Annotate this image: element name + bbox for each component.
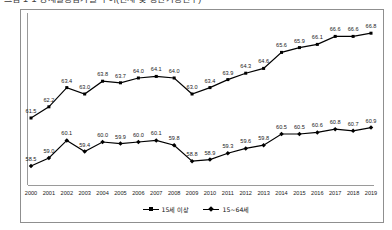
chart-legend: 15세 이상15~64세 bbox=[0, 205, 392, 214]
data-point-label: 60.0 bbox=[133, 132, 144, 138]
data-point-label: 60.8 bbox=[330, 119, 341, 125]
data-point-marker bbox=[100, 140, 105, 145]
chart-plot-area: 61.562.263.463.063.863.764.064.164.063.0… bbox=[0, 0, 392, 230]
data-point-label: 64.0 bbox=[169, 68, 180, 74]
data-point-label: 59.0 bbox=[43, 148, 54, 154]
x-axis-tick-label: 2017 bbox=[329, 190, 341, 196]
data-point-marker bbox=[244, 72, 247, 75]
data-point-marker bbox=[29, 164, 34, 169]
data-point-label: 64.6 bbox=[258, 58, 269, 64]
data-point-marker bbox=[208, 86, 211, 89]
data-point-marker bbox=[83, 93, 86, 96]
data-point-label: 59.9 bbox=[115, 134, 126, 140]
data-point-marker bbox=[351, 129, 356, 134]
data-point-label: 64.3 bbox=[240, 63, 251, 69]
data-point-marker bbox=[334, 35, 337, 38]
x-axis-tick-label: 2019 bbox=[365, 190, 377, 196]
data-point-marker bbox=[297, 132, 302, 137]
data-point-marker bbox=[65, 86, 68, 89]
series-line bbox=[31, 33, 371, 118]
legend-marker-icon bbox=[143, 206, 159, 213]
data-point-label: 59.6 bbox=[240, 138, 251, 144]
data-point-marker bbox=[119, 81, 122, 84]
legend-item-label: 15세 이상 bbox=[162, 205, 190, 214]
data-point-marker bbox=[101, 80, 104, 83]
data-point-marker bbox=[136, 140, 141, 145]
data-point-label: 62.2 bbox=[43, 97, 54, 103]
data-point-label: 60.5 bbox=[294, 124, 305, 130]
data-point-label: 64.0 bbox=[133, 68, 144, 74]
data-point-label: 65.6 bbox=[276, 42, 287, 48]
data-point-marker bbox=[369, 125, 374, 130]
data-point-label: 60.0 bbox=[97, 132, 108, 138]
data-point-label: 66.8 bbox=[366, 23, 377, 29]
data-point-marker bbox=[315, 130, 320, 135]
x-axis-tick-label: 2015 bbox=[293, 190, 305, 196]
data-point-label: 63.4 bbox=[61, 78, 72, 84]
data-point-marker bbox=[316, 43, 319, 46]
data-point-marker bbox=[352, 35, 355, 38]
data-point-marker bbox=[154, 138, 159, 143]
x-axis-tick-label: 2006 bbox=[132, 190, 144, 196]
data-point-marker bbox=[30, 117, 33, 120]
x-axis-tick-label: 2012 bbox=[240, 190, 252, 196]
data-point-label: 64.1 bbox=[151, 66, 162, 72]
data-point-marker bbox=[243, 146, 248, 151]
data-point-label: 60.7 bbox=[348, 121, 359, 127]
x-axis-tick-label: 2005 bbox=[114, 190, 126, 196]
data-point-label: 60.1 bbox=[61, 130, 72, 136]
x-axis-tick-label: 2010 bbox=[204, 190, 216, 196]
x-axis-tick-label: 2009 bbox=[186, 190, 198, 196]
x-axis-tick-label: 2000 bbox=[25, 190, 37, 196]
x-axis-tick-label: 2002 bbox=[61, 190, 73, 196]
x-axis-tick-label: 2004 bbox=[96, 190, 108, 196]
data-point-label: 60.5 bbox=[276, 124, 287, 130]
x-axis-tick-label: 2011 bbox=[222, 190, 234, 196]
data-point-label: 63.0 bbox=[187, 84, 198, 90]
data-point-label: 58.8 bbox=[187, 151, 198, 157]
data-point-label: 66.1 bbox=[312, 34, 323, 40]
data-point-label: 59.3 bbox=[222, 143, 233, 149]
x-axis-tick-label: 2016 bbox=[311, 190, 323, 196]
data-point-label: 59.8 bbox=[169, 135, 180, 141]
data-point-marker bbox=[370, 32, 373, 35]
legend-marker-icon bbox=[203, 206, 219, 213]
data-point-marker bbox=[298, 46, 301, 49]
data-point-marker bbox=[118, 141, 123, 146]
x-axis-tick-label: 2008 bbox=[168, 190, 180, 196]
data-point-label: 59.4 bbox=[79, 142, 90, 148]
x-axis-tick-label: 2003 bbox=[78, 190, 90, 196]
data-point-label: 66.6 bbox=[330, 26, 341, 32]
x-axis-tick-label: 2013 bbox=[257, 190, 269, 196]
data-point-label: 60.1 bbox=[151, 130, 162, 136]
data-point-marker bbox=[280, 51, 283, 54]
x-axis-tick-label: 2001 bbox=[43, 190, 55, 196]
data-point-label: 59.8 bbox=[258, 135, 269, 141]
legend-item-label: 15~64세 bbox=[222, 205, 249, 214]
data-point-marker bbox=[226, 78, 229, 81]
data-point-marker bbox=[155, 75, 158, 78]
data-point-label: 60.9 bbox=[366, 118, 377, 124]
data-point-label: 61.5 bbox=[26, 108, 37, 114]
legend-item[interactable]: 15세 이상 bbox=[143, 205, 190, 214]
x-axis-tick-label: 2018 bbox=[347, 190, 359, 196]
legend-item[interactable]: 15~64세 bbox=[203, 205, 249, 214]
data-point-marker bbox=[333, 127, 338, 132]
data-point-label: 63.8 bbox=[97, 71, 108, 77]
data-point-marker bbox=[208, 157, 213, 162]
data-point-marker bbox=[47, 105, 50, 108]
data-point-marker bbox=[137, 77, 140, 80]
data-point-label: 58.9 bbox=[204, 150, 215, 156]
data-point-label: 63.4 bbox=[204, 78, 215, 84]
data-point-marker bbox=[226, 151, 231, 156]
data-point-label: 58.5 bbox=[26, 156, 37, 162]
x-axis-tick-label: 2007 bbox=[150, 190, 162, 196]
data-point-label: 60.6 bbox=[312, 122, 323, 128]
data-point-label: 66.6 bbox=[348, 26, 359, 32]
data-point-label: 63.0 bbox=[79, 84, 90, 90]
x-axis-tick-label: 2014 bbox=[275, 190, 287, 196]
data-point-label: 63.7 bbox=[115, 73, 126, 79]
data-point-marker bbox=[191, 93, 194, 96]
data-point-marker bbox=[262, 67, 265, 70]
data-point-label: 63.9 bbox=[222, 70, 233, 76]
